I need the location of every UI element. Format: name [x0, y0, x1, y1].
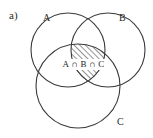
intersection-label: A ∩ B ∩ C — [61, 59, 106, 70]
set-label-b: B — [119, 13, 126, 23]
part-label: a) — [9, 10, 18, 21]
set-label-c: C — [117, 117, 124, 127]
set-label-a: A — [43, 13, 50, 23]
venn-diagram-figure: a) A B C A ∩ B ∩ C — [0, 0, 153, 138]
